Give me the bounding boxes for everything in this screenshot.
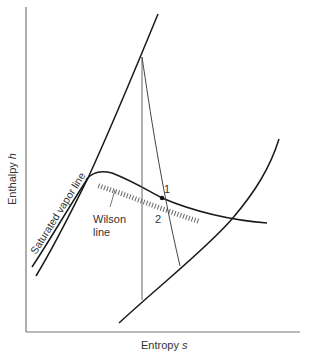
saturated-vapor-label: Saturated vapor line xyxy=(28,170,88,256)
saturated-vapor-line xyxy=(32,178,88,267)
wilson-label-line: line xyxy=(93,226,110,238)
hs-diagram: 1 2 Wilson line Saturated vapor line Ent… xyxy=(0,0,309,355)
point-1-marker xyxy=(160,196,164,200)
point-1-label: 1 xyxy=(164,183,170,195)
expansion-line xyxy=(142,57,180,266)
point-2-label: 2 xyxy=(155,213,161,225)
x-axis-label: Entropy s xyxy=(141,339,188,351)
low-pressure-isobar xyxy=(119,139,279,323)
wilson-label: Wilson xyxy=(93,213,126,225)
y-axis-label: Enthalpy h xyxy=(6,153,18,205)
